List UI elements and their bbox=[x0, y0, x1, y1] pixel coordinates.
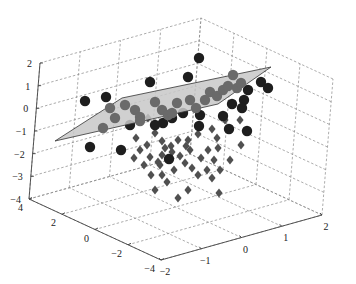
diamond-marker bbox=[130, 153, 137, 162]
diamond-marker bbox=[216, 165, 223, 174]
circle-marker bbox=[135, 116, 145, 126]
diamond-marker bbox=[163, 177, 170, 186]
z-tick-label: −1 bbox=[16, 126, 27, 137]
circle-marker bbox=[164, 154, 174, 164]
circle-marker bbox=[237, 103, 247, 113]
circle-marker bbox=[194, 53, 204, 63]
x-tick-label: 1 bbox=[283, 232, 288, 243]
diamond-marker bbox=[226, 155, 233, 164]
y-tick-label: 0 bbox=[84, 233, 89, 244]
diamond-marker bbox=[136, 145, 143, 154]
diamond-marker bbox=[184, 185, 191, 194]
diamond-marker bbox=[194, 170, 201, 179]
diamond-marker bbox=[197, 153, 204, 162]
floor-grid-line bbox=[110, 177, 242, 238]
circle-marker bbox=[224, 124, 234, 134]
circle-marker bbox=[116, 145, 126, 155]
circle-marker bbox=[110, 113, 120, 123]
diamond-marker bbox=[188, 163, 195, 172]
y-tick-label: −4 bbox=[144, 263, 155, 274]
circle-marker bbox=[80, 96, 90, 106]
y-tick-label: −2 bbox=[111, 248, 122, 259]
diamond-marker bbox=[170, 165, 177, 174]
circle-marker bbox=[228, 70, 238, 80]
back-wall-grid-line bbox=[190, 154, 322, 215]
diamond-marker bbox=[176, 151, 183, 160]
diamond-marker bbox=[140, 160, 147, 169]
x-tick-label: −1 bbox=[200, 255, 211, 266]
circle-marker bbox=[191, 103, 201, 113]
y-tick-label: 4 bbox=[18, 202, 23, 213]
circle-marker bbox=[183, 72, 193, 82]
diamond-marker bbox=[151, 185, 158, 194]
floor-grid-line bbox=[150, 165, 282, 226]
x-tick-label: −2 bbox=[160, 266, 171, 277]
circle-marker bbox=[120, 100, 130, 110]
diamond-marker bbox=[210, 155, 217, 164]
diamond-marker bbox=[236, 115, 243, 124]
diamond-marker bbox=[174, 135, 181, 144]
circle-marker bbox=[85, 142, 95, 152]
diamond-marker bbox=[146, 152, 153, 161]
circle-marker bbox=[218, 111, 228, 121]
back-wall-grid-line bbox=[192, 131, 324, 192]
diamond-marker bbox=[181, 158, 188, 167]
circle-marker bbox=[236, 78, 246, 88]
diamond-marker bbox=[215, 188, 222, 197]
circle-marker bbox=[150, 120, 160, 130]
circle-marker bbox=[172, 98, 182, 108]
circle-marker bbox=[101, 92, 111, 102]
circle-marker bbox=[227, 99, 237, 109]
x-tick-label: 2 bbox=[324, 221, 329, 232]
circle-marker bbox=[223, 81, 233, 91]
circle-marker bbox=[167, 108, 177, 118]
z-tick-label: 1 bbox=[25, 81, 30, 92]
grid-lines bbox=[29, 18, 333, 260]
diamond-marker bbox=[147, 170, 154, 179]
circle-marker bbox=[263, 83, 273, 93]
diamond-marker bbox=[237, 140, 244, 149]
diamond-marker bbox=[158, 170, 165, 179]
y-tick-label: 2 bbox=[51, 217, 56, 228]
circle-marker bbox=[98, 123, 108, 133]
z-tick-label: −3 bbox=[12, 171, 23, 182]
diamond-marker bbox=[143, 140, 150, 149]
diamond-marker bbox=[208, 124, 215, 133]
diamond-marker bbox=[208, 173, 215, 182]
circle-marker bbox=[145, 77, 155, 87]
diamond-marker bbox=[213, 133, 220, 142]
circle-marker bbox=[105, 103, 115, 113]
circle-marker bbox=[242, 126, 252, 136]
diamond-marker bbox=[204, 145, 211, 154]
x-tick-label: 0 bbox=[243, 244, 248, 255]
scatter-3d-chart: −4−3−2−1012−4−2024−2−1012 bbox=[0, 0, 356, 284]
z-tick-label: 2 bbox=[27, 58, 32, 69]
diamond-marker bbox=[174, 193, 181, 202]
z-tick-label: 0 bbox=[23, 103, 28, 114]
z-tick-label: −2 bbox=[14, 149, 25, 160]
circle-marker bbox=[194, 121, 204, 131]
circle-marker bbox=[150, 97, 160, 107]
diamond-marker bbox=[132, 133, 139, 142]
